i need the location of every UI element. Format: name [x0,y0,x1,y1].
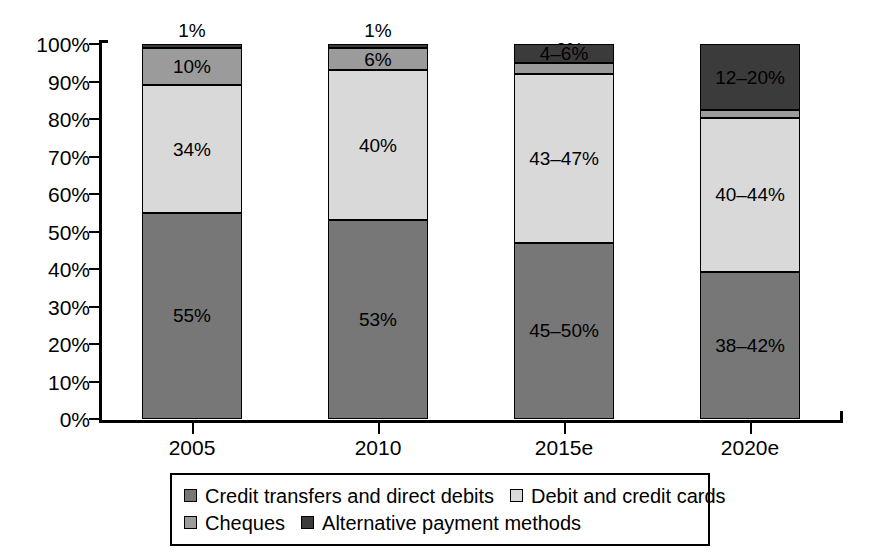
x-axis-tick [192,423,194,434]
bar-segment: 4–6% [514,44,614,63]
bar-segment-label: 1% [328,21,428,40]
y-axis-tick-label: 60% [48,184,90,205]
legend-row: ChequesAlternative payment methods [184,509,698,536]
bar-segment: 34% [142,85,242,213]
y-axis-tick [89,118,99,120]
bar-segment [700,110,800,117]
y-axis-tick-label: 10% [48,371,90,392]
bar-segment-label: 55% [173,306,211,325]
y-axis-tick [89,193,99,195]
bar-segment: 45–50% [514,243,614,419]
bar-segment-label: 53% [359,310,397,329]
bar-segment: 55% [142,213,242,419]
bar-segment-label: 1% [142,21,242,40]
bar-segment [514,63,614,74]
y-axis-labels: 0%10%20%30%40%50%60%70%80%90%100% [0,44,90,419]
bar-segment: 10% [142,48,242,86]
plot-area: 55%34%10%1%53%40%6%1%45–50%43–47%<3%4–6%… [99,44,843,419]
y-axis-tick-label: 90% [48,71,90,92]
bar-segment-label: 38–42% [715,336,785,355]
x-axis-tick-label: 2005 [169,436,216,460]
y-axis-tick-label: 0% [60,409,90,430]
y-axis-tick [89,381,99,383]
legend-label: Debit and credit cards [531,486,726,506]
bar-segment-label: 43–47% [529,149,599,168]
y-axis-tick-label: 100% [36,34,90,55]
chart-figure: 0%10%20%30%40%50%60%70%80%90%100% 55%34%… [0,0,884,557]
legend-item: Debit and credit cards [510,486,726,506]
bar-segment: 12–20% [700,44,800,110]
y-axis-tick [89,268,99,270]
y-axis-top-cap [99,40,108,43]
x-axis-tick [564,423,566,434]
legend-item: Alternative payment methods [301,513,581,533]
y-axis-tick [89,43,99,45]
bar-segment: 53% [328,220,428,419]
bar-segment-label: 10% [173,57,211,76]
legend-item: Cheques [184,513,285,533]
x-axis-tick-label: 2015e [535,436,593,460]
y-axis-tick [89,156,99,158]
y-axis-tick-label: 80% [48,109,90,130]
bar-segment-label: 4–6% [540,44,589,63]
bar-stack: 38–42%40–44%<2%12–20% [700,44,800,419]
legend-swatch-icon [184,516,197,529]
legend-label: Cheques [205,513,285,533]
x-axis-tick [750,423,752,434]
y-axis-tick [89,343,99,345]
bar-segment-label: 45–50% [529,321,599,340]
y-axis-tick-label: 40% [48,259,90,280]
bar-segment-label: 40% [359,136,397,155]
y-axis-tick-label: 50% [48,221,90,242]
y-axis-tick-label: 70% [48,146,90,167]
bar-segment: 38–42% [700,272,800,419]
bar-segment: 40% [328,70,428,220]
x-axis-tick-label: 2010 [355,436,402,460]
legend-swatch-icon [301,516,314,529]
x-axis-tick [378,423,380,434]
y-axis-tick [89,231,99,233]
legend-row: Credit transfers and direct debitsDebit … [184,482,698,509]
bar-segment-label: 12–20% [715,68,785,87]
y-axis-tick [89,306,99,308]
bar-stack: 53%40%6%1% [328,44,428,419]
bar-stack: 55%34%10%1% [142,44,242,419]
x-axis-line [99,420,843,423]
legend-item: Credit transfers and direct debits [184,486,494,506]
bar-segment: 43–47% [514,74,614,243]
bar-segment: 6% [328,48,428,71]
y-axis-tick [89,81,99,83]
bar-segment: 40–44% [700,118,800,272]
chart-legend: Credit transfers and direct debitsDebit … [170,473,710,546]
x-axis-tick-label: 2020e [721,436,779,460]
bar-stack: 45–50%43–47%<3%4–6% [514,44,614,419]
bar-segment-label: 34% [173,140,211,159]
legend-label: Alternative payment methods [322,513,581,533]
y-axis-tick-label: 30% [48,296,90,317]
y-axis-tick [89,418,99,420]
legend-swatch-icon [184,489,197,502]
bar-segment-label: 40–44% [715,185,785,204]
bar-segment-label: 6% [364,50,391,69]
legend-swatch-icon [510,489,523,502]
y-axis-tick-label: 20% [48,334,90,355]
legend-label: Credit transfers and direct debits [205,486,494,506]
